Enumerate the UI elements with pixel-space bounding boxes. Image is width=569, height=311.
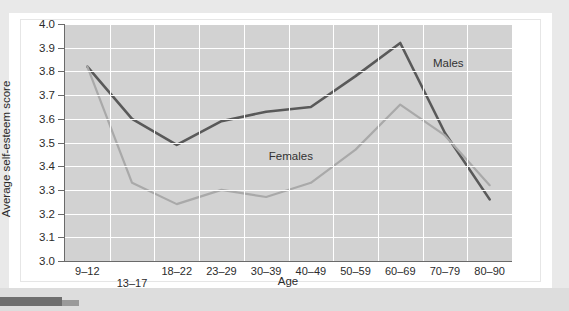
y-tick-label: 3.9: [39, 42, 55, 54]
series-label-males: Males: [433, 57, 464, 69]
x-tick-label: 18–22: [161, 265, 192, 277]
y-tick-mark: [58, 48, 64, 49]
y-tick-label: 3.5: [39, 137, 55, 149]
y-tick-label: 3.7: [39, 89, 55, 101]
y-tick-mark: [58, 24, 64, 25]
gridline-vertical: [378, 24, 379, 261]
gridline-vertical: [244, 24, 245, 261]
y-tick-mark: [58, 119, 64, 120]
gridline-vertical: [199, 24, 200, 261]
y-tick-label: 3.6: [39, 113, 55, 125]
y-tick-mark: [58, 71, 64, 72]
y-tick-label: 4.0: [39, 18, 55, 30]
x-tick-label: 80–90: [474, 265, 505, 277]
x-tick-label: 60–69: [385, 265, 416, 277]
page-band-right: [552, 13, 569, 288]
y-tick-mark: [58, 214, 64, 215]
x-tick-label: 40–49: [296, 265, 327, 277]
y-tick-label: 3.4: [39, 160, 55, 172]
x-tick-label: 9–12: [75, 265, 99, 277]
y-tick-label: 3.3: [39, 184, 55, 196]
figure-card: 3.03.13.23.33.43.53.63.73.83.94.0 9–1213…: [9, 13, 552, 288]
gridline-vertical: [154, 24, 155, 261]
x-tick-label: 70–79: [430, 265, 461, 277]
gridline-vertical: [423, 24, 424, 261]
y-tick-label: 3.1: [39, 231, 55, 243]
y-tick-label: 3.2: [39, 208, 55, 220]
x-tick-label: 13–17: [117, 277, 148, 289]
y-tick-label: 3.0: [39, 255, 55, 267]
series-label-females: Females: [269, 150, 313, 162]
y-tick-mark: [58, 95, 64, 96]
corner-mark-secondary: [62, 300, 79, 306]
x-axis-title: Age: [278, 275, 298, 287]
gridline-vertical: [289, 24, 290, 261]
gridline-vertical: [333, 24, 334, 261]
line-chart-figure: 3.03.13.23.33.43.53.63.73.83.94.0 9–1213…: [9, 13, 552, 288]
y-axis-line: [64, 24, 65, 262]
y-tick-mark: [58, 237, 64, 238]
y-tick-mark: [58, 261, 64, 262]
y-axis-title: Average self-esteem score: [0, 81, 12, 218]
x-tick-label: 23–29: [206, 265, 237, 277]
gridline-vertical: [110, 24, 111, 261]
x-axis-line: [64, 261, 512, 262]
gridline-vertical: [467, 24, 468, 261]
y-tick-mark: [58, 190, 64, 191]
corner-mark: [0, 297, 62, 306]
y-tick-label: 3.8: [39, 65, 55, 77]
y-tick-mark: [58, 143, 64, 144]
x-tick-label: 50–59: [340, 265, 371, 277]
page-band-bottom: [0, 288, 569, 311]
y-tick-mark: [58, 166, 64, 167]
page-band-top: [0, 0, 569, 13]
